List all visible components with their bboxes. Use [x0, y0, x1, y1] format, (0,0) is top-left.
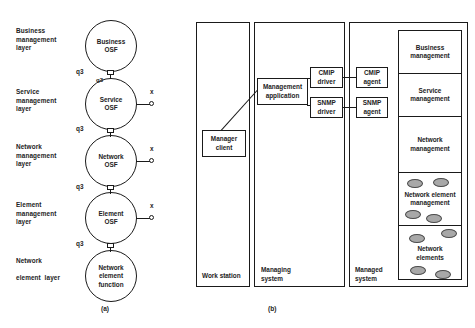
column-managing-system [254, 22, 345, 287]
stack-cell-business-management-label: Business management [410, 44, 449, 61]
q3-label-4: q3 [76, 240, 84, 249]
x-reference-point-element [149, 215, 154, 220]
node-element-osf[interactable]: Element OSF [85, 192, 137, 244]
q3-label-3: q3 [76, 183, 84, 192]
figure-canvas: Business management layer Service manage… [0, 0, 475, 328]
box-cmip-agent[interactable]: CMIP agent [356, 67, 388, 88]
network-element-oval [433, 178, 449, 187]
box-manager-client[interactable]: Manager client [202, 130, 246, 157]
node-network-element-function[interactable]: Network element function [85, 250, 137, 302]
stack-cell-network-elements-label: Network elements [416, 245, 444, 262]
node-business-osf-label: Business OSF [86, 38, 136, 55]
box-cmip-driver-label: CMIP driver [318, 69, 336, 86]
box-snmp-driver-label: SNMP driver [317, 99, 335, 116]
stack-cell-service-management-label: Service management [410, 87, 449, 104]
q3-reference-point-2 [107, 128, 114, 133]
network-element-oval [405, 210, 421, 219]
q3-label-inner: q3 [96, 76, 103, 85]
q3-reference-point-1 [107, 70, 114, 75]
box-cmip-driver[interactable]: CMIP driver [310, 67, 343, 88]
stack-cell-network-management-label: Network management [410, 136, 449, 153]
layer-label-service: Service management layer [16, 88, 82, 114]
node-network-osf-label: Network OSF [86, 153, 136, 170]
x-reference-point-network [149, 158, 154, 163]
box-snmp-agent[interactable]: SNMP agent [356, 97, 388, 118]
panel-b-caption: (b) [268, 305, 276, 312]
column-managing-system-caption: Managing system [261, 266, 291, 283]
stack-cell-network-elements[interactable]: Network elements [399, 226, 461, 281]
node-network-osf[interactable]: Network OSF [85, 135, 137, 187]
network-element-oval [410, 266, 426, 275]
node-network-element-function-label: Network element function [86, 264, 136, 289]
link-cmip-driver-to-cmip-agent [342, 77, 357, 78]
node-element-osf-label: Element OSF [86, 210, 136, 227]
q3-reference-point-4 [107, 243, 114, 248]
panel-a-caption: (a) [101, 305, 109, 312]
x-label-network: x [150, 145, 154, 154]
q3-label-2: q3 [76, 125, 84, 134]
box-snmp-driver[interactable]: SNMP driver [310, 97, 343, 118]
node-service-osf[interactable]: Service OSF [85, 78, 137, 130]
link-snmp-driver-to-snmp-agent [342, 107, 357, 108]
layer-label-element: Element management layer [16, 201, 82, 227]
management-layer-stack: Business management Service management N… [398, 30, 462, 280]
column-work-station-caption: Work station [202, 272, 241, 281]
stack-cell-business-management[interactable]: Business management [399, 31, 461, 74]
box-management-application-label: Management application [263, 83, 302, 100]
node-service-osf-label: Service OSF [86, 96, 136, 113]
stack-cell-network-element-management-label: Network element management [404, 191, 455, 208]
stack-cell-network-management[interactable]: Network management [399, 117, 461, 173]
x-reference-point-service [149, 101, 154, 106]
box-manager-client-label: Manager client [211, 135, 237, 152]
layer-label-network: Network management layer [16, 143, 82, 169]
box-cmip-agent-label: CMIP agent [363, 69, 380, 86]
stack-cell-service-management[interactable]: Service management [399, 74, 461, 117]
stack-cell-network-element-management[interactable]: Network element management [399, 173, 461, 226]
box-snmp-agent-label: SNMP agent [363, 99, 381, 116]
layer-label-network-element: Network element layer [16, 257, 92, 283]
network-element-oval [441, 229, 457, 238]
x-label-service: x [150, 88, 154, 97]
node-business-osf[interactable]: Business OSF [85, 20, 137, 72]
link-management-application-to-cmip-driver [307, 78, 311, 79]
network-element-oval [407, 179, 423, 188]
column-managed-system-caption: Managed system [355, 266, 383, 283]
x-label-element: x [150, 202, 154, 211]
box-management-application[interactable]: Management application [257, 78, 308, 105]
layer-label-business: Business management layer [16, 27, 82, 53]
network-element-oval [426, 214, 442, 223]
q3-reference-point-3 [107, 185, 114, 190]
network-element-oval [409, 234, 425, 243]
network-element-oval [435, 270, 451, 279]
q3-label-1: q3 [76, 68, 84, 77]
link-management-application-to-snmp-driver [307, 105, 311, 106]
